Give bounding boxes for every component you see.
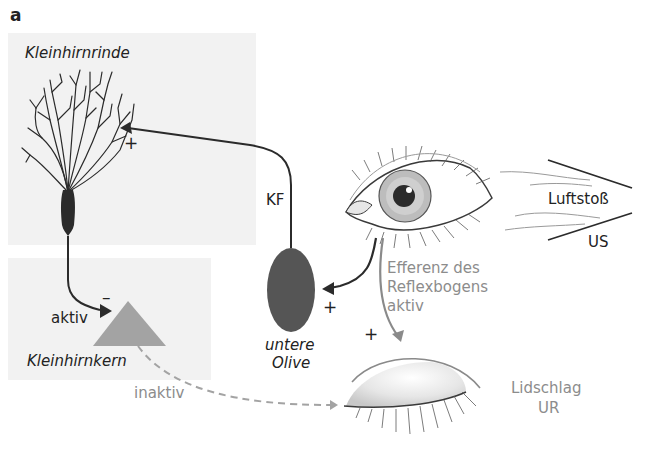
inhibitory-sign: –: [102, 288, 111, 308]
stimulus-abbr: US: [588, 234, 609, 251]
olive-label-line1: untere: [265, 337, 315, 354]
closed-eye-icon: [344, 359, 480, 434]
reflex-label-line1: Efferenz des: [387, 260, 480, 277]
reflex-label-line3: aktiv: [387, 298, 424, 315]
active-label: aktiv: [51, 310, 88, 327]
eye-to-olive-arrow: [330, 238, 376, 288]
climbing-fiber-sign: +: [124, 134, 138, 154]
olive-label-line2: Olive: [272, 355, 310, 372]
eye-to-olive-arrowhead-icon: [322, 282, 334, 295]
panel-label: a: [10, 6, 21, 26]
reflex-sign: +: [364, 325, 378, 345]
climbing-fiber-label: KF: [266, 192, 284, 209]
inferior-olive-icon: [267, 248, 315, 332]
olive-input-sign: +: [323, 298, 337, 318]
nucleus-label: Kleinhirnkern: [27, 353, 127, 370]
response-label: Lidschlag: [511, 380, 582, 397]
reflex-label-line2: Reflexbogens: [387, 279, 488, 296]
response-abbr: UR: [538, 400, 559, 417]
inactive-label: inaktiv: [134, 385, 184, 402]
open-eye-icon: [346, 146, 492, 248]
cortex-label: Kleinhirnrinde: [25, 45, 130, 62]
stimulus-label: Luftstoß: [548, 191, 609, 208]
inactive-arrowhead-icon: [330, 400, 338, 410]
